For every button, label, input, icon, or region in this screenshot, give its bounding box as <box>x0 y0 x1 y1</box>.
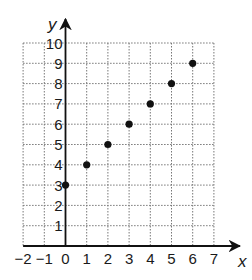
y-tick-label: 6 <box>54 116 62 133</box>
data-point <box>83 161 90 168</box>
grid-lines <box>23 43 214 246</box>
coordinate-plane: −2−10123456712345678910 x y <box>0 0 252 280</box>
data-point <box>104 141 111 148</box>
x-tick-label: 3 <box>125 250 133 267</box>
x-tick-label: −1 <box>36 250 53 267</box>
data-point <box>62 182 69 189</box>
x-tick-label: 1 <box>83 250 91 267</box>
y-tick-label: 7 <box>54 95 62 112</box>
x-axis-label: x <box>237 252 247 271</box>
y-tick-label: 10 <box>46 35 63 52</box>
y-tick-label: 3 <box>54 177 62 194</box>
y-tick-label: 9 <box>54 55 62 72</box>
x-tick-label: 0 <box>61 250 69 267</box>
x-tick-label: 7 <box>210 250 218 267</box>
y-tick-label: 8 <box>54 75 62 92</box>
x-tick-label: 5 <box>167 250 175 267</box>
data-point <box>168 80 175 87</box>
y-tick-label: 1 <box>54 217 62 234</box>
x-tick-label: 6 <box>189 250 197 267</box>
tick-labels: −2−10123456712345678910 <box>15 35 219 268</box>
x-tick-label: 2 <box>104 250 112 267</box>
data-point <box>126 121 133 128</box>
data-point <box>147 100 154 107</box>
x-tick-label: −2 <box>15 250 32 267</box>
y-axis-label: y <box>47 15 58 34</box>
y-tick-label: 5 <box>54 136 62 153</box>
data-point <box>189 60 196 67</box>
x-tick-label: 4 <box>146 250 154 267</box>
y-tick-label: 4 <box>54 156 62 173</box>
y-tick-label: 2 <box>54 197 62 214</box>
